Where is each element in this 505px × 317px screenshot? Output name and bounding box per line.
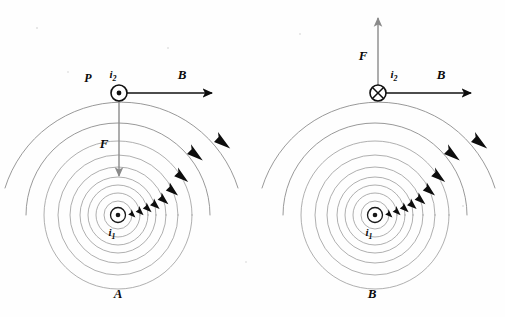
panel-A: F B P i2 i1 A — [5, 67, 238, 301]
test-wire-symbol-B — [370, 85, 386, 101]
physics-figure: F B P i2 i1 A — [0, 0, 505, 317]
figure-canvas: F B P i2 i1 A — [0, 0, 505, 317]
force-label-A: F — [99, 136, 109, 151]
source-wire-symbol-A — [111, 208, 126, 223]
test-wire-symbol-A — [111, 85, 127, 101]
force-vector-B: F — [358, 18, 378, 85]
force-vector-A: F — [99, 101, 119, 176]
b-label-A: B — [177, 67, 187, 82]
panel-label-A: A — [113, 286, 123, 301]
force-label-B: F — [358, 48, 368, 63]
source-wire-symbol-B — [368, 208, 383, 223]
field-lines-B — [262, 102, 495, 289]
point-p-label: P — [84, 71, 92, 85]
b-label-B: B — [436, 67, 446, 82]
field-lines-A — [5, 102, 238, 289]
b-vector-A: B — [119, 67, 212, 93]
current-i2-label-B: i2 — [390, 68, 397, 83]
panel-label-B: B — [367, 286, 377, 301]
panel-B: F B i2 i1 B — [262, 18, 495, 301]
current-i2-label-A: i2 — [109, 68, 116, 83]
